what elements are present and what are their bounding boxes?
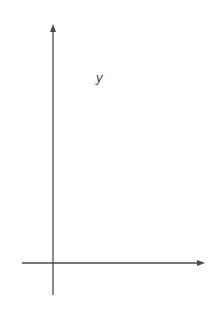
exponential-chart: y	[0, 0, 217, 312]
equation-label: y	[95, 70, 104, 85]
y-axis-arrow-icon	[50, 24, 56, 32]
x-axis-arrow-icon	[197, 260, 205, 266]
